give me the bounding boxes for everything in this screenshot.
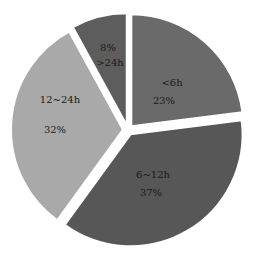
slice-label-gt24h-pct: 8% <box>100 42 116 53</box>
slice-lt6h <box>131 14 242 126</box>
slice-label-lt6h-pct: 23% <box>153 95 175 106</box>
slice-label-lt6h-range: <6h <box>161 77 183 88</box>
slice-label-gt24h-range: >24h <box>96 57 124 68</box>
pie-chart: <6h 23% 6~12h 37% 12~24h 32% 8% >24h <box>0 0 256 265</box>
slice-label-12to24h-range: 12~24h <box>40 94 81 105</box>
slice-label-6to12h-range: 6~12h <box>136 169 170 180</box>
slice-label-12to24h-pct: 32% <box>44 124 66 135</box>
slice-label-6to12h-pct: 37% <box>140 187 162 198</box>
